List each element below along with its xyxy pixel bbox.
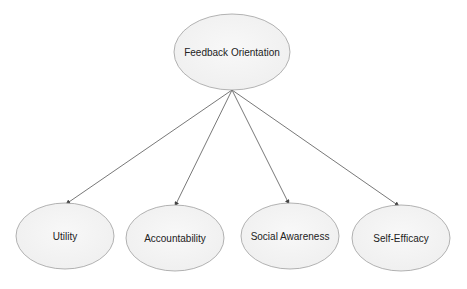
node-feedback-orientation: Feedback Orientation <box>174 14 290 90</box>
utility-label: Utility <box>53 231 77 242</box>
node-utility: Utility <box>16 203 114 269</box>
node-self-efficacy: Self-Efficacy <box>352 205 450 271</box>
self-efficacy-label: Self-Efficacy <box>373 233 428 244</box>
accountability-label: Accountability <box>144 233 206 244</box>
edges-group <box>66 90 399 206</box>
social-awareness-label: Social Awareness <box>251 231 330 242</box>
root-label: Feedback Orientation <box>184 47 280 58</box>
arrow-to-self-efficacy <box>232 90 399 206</box>
arrow-to-accountability <box>175 90 232 206</box>
arrow-to-social-awareness <box>232 90 289 204</box>
factor-diagram: Feedback Orientation Utility Accountabil… <box>0 0 467 289</box>
arrow-to-utility <box>66 90 232 204</box>
node-accountability: Accountability <box>126 205 224 271</box>
node-social-awareness: Social Awareness <box>241 203 339 269</box>
